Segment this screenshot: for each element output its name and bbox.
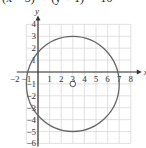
x-tick-label: 5 xyxy=(94,74,99,84)
y-tick-label: −3 xyxy=(26,103,36,113)
x-tick-label: 7 xyxy=(117,74,122,84)
y-tick-label: 1 xyxy=(32,55,37,65)
y-tick-label: 2 xyxy=(32,43,37,53)
x-tick-label: −2 xyxy=(10,74,20,84)
y-tick-label: 4 xyxy=(32,19,37,29)
grid-lines xyxy=(26,24,130,143)
x-axis-arrow-icon xyxy=(137,70,142,75)
y-tick-label: −6 xyxy=(26,138,36,148)
x-tick-label: 1 xyxy=(47,74,52,84)
x-tick-label: 3 xyxy=(71,74,76,84)
x-tick-label: 6 xyxy=(105,74,110,84)
x-axis-label: x xyxy=(143,67,146,77)
x-tick-label: 8 xyxy=(129,74,134,84)
circle-graph: xy −2−1123456784321−1−2−3−4−5−6 xyxy=(0,0,146,148)
x-tick-label: 4 xyxy=(82,74,87,84)
y-tick-label: −4 xyxy=(26,115,36,125)
y-tick-label: −2 xyxy=(26,91,36,101)
y-tick-label: 3 xyxy=(32,31,37,41)
y-tick-label: −1 xyxy=(26,79,36,89)
y-tick-label: −5 xyxy=(26,127,36,137)
y-axis-label: y xyxy=(34,6,39,16)
x-tick-label: 2 xyxy=(59,74,64,84)
